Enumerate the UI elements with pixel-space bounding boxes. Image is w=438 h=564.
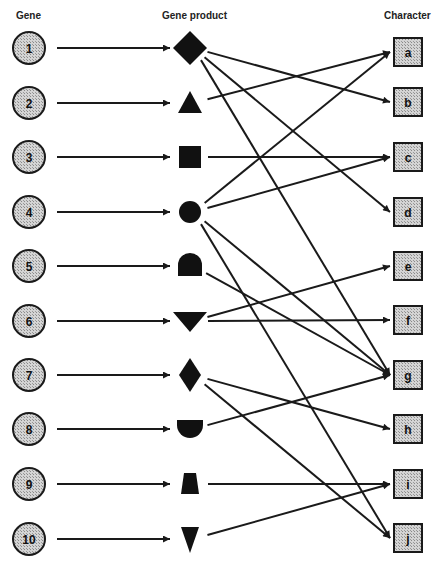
gene-number: 2 [26, 97, 33, 111]
gene-node-9: 9 [13, 468, 45, 500]
gene-character-diagram: Gene Gene product Character 12345678910 … [0, 0, 438, 564]
arrow-4-to-c [207, 157, 390, 208]
gene-node-3: 3 [13, 141, 45, 173]
connection-arrows [57, 48, 390, 539]
gene-product-column [173, 31, 207, 553]
gene-node-10: 10 [13, 523, 45, 555]
gene-node-2: 2 [13, 87, 45, 119]
character-node-d: d [394, 198, 422, 226]
character-letter: e [405, 260, 412, 274]
character-node-c: c [394, 143, 422, 171]
character-node-f: f [394, 306, 422, 334]
product-bell-icon [178, 253, 202, 276]
arrow-10-to-i [207, 484, 390, 535]
character-letter: b [404, 96, 411, 110]
arrow-8-to-g [207, 375, 390, 425]
character-node-g: g [394, 361, 422, 389]
gene-node-1: 1 [13, 32, 45, 64]
product-diamond-tall-icon [179, 358, 201, 392]
product-triangle-down-narrow-icon [181, 527, 199, 553]
character-node-j: j [394, 524, 422, 552]
character-letter: j [405, 532, 409, 546]
diagram-canvas: 12345678910 abcdefghij [0, 0, 438, 564]
gene-node-5: 5 [13, 250, 45, 282]
arrow-1-to-d [205, 57, 390, 212]
gene-number: 8 [26, 423, 33, 437]
character-letter: g [404, 369, 411, 383]
gene-number: 5 [26, 260, 33, 274]
gene-number: 7 [26, 369, 33, 383]
gene-node-4: 4 [13, 196, 45, 228]
character-node-h: h [394, 415, 422, 443]
character-letter: c [405, 151, 412, 165]
character-letter: a [405, 46, 412, 60]
gene-number: 3 [26, 151, 33, 165]
character-letter: h [404, 423, 411, 437]
product-cup-icon [177, 420, 203, 438]
product-triangle-down-wide-icon [173, 312, 207, 332]
gene-node-6: 6 [13, 305, 45, 337]
arrow-5-to-g [206, 273, 390, 375]
gene-node-8: 8 [13, 413, 45, 445]
gene-node-7: 7 [13, 359, 45, 391]
character-node-b: b [394, 88, 422, 116]
character-node-a: a [394, 38, 422, 66]
arrow-4-to-a [205, 52, 390, 203]
gene-number: 4 [26, 206, 33, 220]
product-circle-icon [179, 201, 201, 223]
gene-number: 9 [26, 478, 33, 492]
character-letter: d [404, 206, 411, 220]
product-square-icon [179, 146, 201, 168]
product-triangle-up-icon [178, 91, 202, 113]
character-node-e: e [394, 252, 422, 280]
character-letter: i [406, 478, 409, 492]
arrow-6-to-e [207, 266, 390, 317]
gene-number: 6 [26, 315, 33, 329]
gene-number: 1 [26, 42, 33, 56]
arrow-6-to-f [208, 320, 390, 321]
character-column: abcdefghij [394, 38, 422, 552]
arrow-7-to-j [205, 384, 390, 538]
product-trapezoid-icon [181, 473, 199, 494]
gene-column: 12345678910 [13, 32, 45, 555]
arrow-4-to-g [205, 221, 390, 375]
character-node-i: i [394, 470, 422, 498]
arrow-1-to-g [201, 60, 390, 375]
gene-number: 10 [22, 533, 36, 547]
